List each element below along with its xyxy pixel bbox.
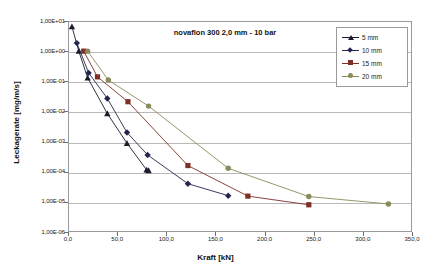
legend-marker-icon <box>342 46 359 55</box>
data-point-marker <box>225 193 231 199</box>
data-point-marker <box>386 201 391 206</box>
legend-label: 15 mm <box>362 60 382 68</box>
data-point-marker <box>185 181 191 187</box>
y-axis-title: Leckagerate [mg/m/s] <box>12 13 21 233</box>
x-axis-tick-mark <box>166 232 167 236</box>
x-axis-tick-mark <box>68 232 69 236</box>
data-point-marker <box>226 166 231 171</box>
x-axis-tick-label: 200,0 <box>245 236 285 243</box>
series-line <box>77 43 228 196</box>
x-axis-tick-mark <box>117 232 118 236</box>
x-axis-tick-mark <box>412 232 413 236</box>
data-point-marker <box>69 23 75 29</box>
data-series <box>81 49 311 208</box>
legend-item[interactable]: 20 mm <box>337 70 407 83</box>
x-axis-tick-label: 250,0 <box>294 236 334 243</box>
data-point-marker <box>106 77 111 82</box>
chart-title: novaflon 300 2,0 mm - 10 bar <box>120 28 330 37</box>
data-point-marker <box>185 163 190 168</box>
data-point-marker <box>74 40 80 46</box>
x-axis-tick-label: 150,0 <box>195 236 235 243</box>
data-point-marker <box>124 140 130 146</box>
legend-item[interactable]: 10 mm <box>337 44 407 57</box>
x-axis-tick-mark <box>265 232 266 236</box>
data-point-marker <box>104 95 110 101</box>
x-axis-title: Kraft [kN] <box>0 253 431 262</box>
x-axis-tick-mark <box>314 232 315 236</box>
legend-marker-icon <box>342 72 359 81</box>
legend-item[interactable]: 5 mm <box>337 31 407 44</box>
legend-label: 20 mm <box>362 73 382 81</box>
data-point-marker <box>95 74 100 79</box>
data-point-marker <box>146 103 151 108</box>
data-point-marker <box>84 75 90 81</box>
legend-label: 5 mm <box>362 34 378 42</box>
x-axis-tick-label: 350,0 <box>392 236 431 243</box>
data-point-marker <box>306 202 311 207</box>
x-axis-tick-label: 300,0 <box>343 236 383 243</box>
x-axis-tick-label: 50,0 <box>97 236 137 243</box>
legend-marker-icon <box>342 33 359 42</box>
legend-item[interactable]: 15 mm <box>337 57 407 70</box>
chart-legend: 5 mm10 mm15 mm20 mm <box>336 27 408 87</box>
x-axis-tick-label: 100,0 <box>146 236 186 243</box>
x-axis-tick-label: 0,0 <box>48 236 88 243</box>
x-axis-tick-mark <box>363 232 364 236</box>
data-point-marker <box>104 110 110 116</box>
data-point-marker <box>306 194 311 199</box>
x-axis-tick-mark <box>215 232 216 236</box>
data-series <box>74 40 232 199</box>
data-point-marker <box>245 194 250 199</box>
series-line <box>84 51 309 205</box>
data-point-marker <box>85 48 90 53</box>
legend-marker-icon <box>342 59 359 68</box>
chart-container: 1,00E-061,00E-051,00E-041,00E-031,00E-02… <box>0 0 431 274</box>
data-point-marker <box>125 99 130 104</box>
legend-label: 10 mm <box>362 47 382 55</box>
